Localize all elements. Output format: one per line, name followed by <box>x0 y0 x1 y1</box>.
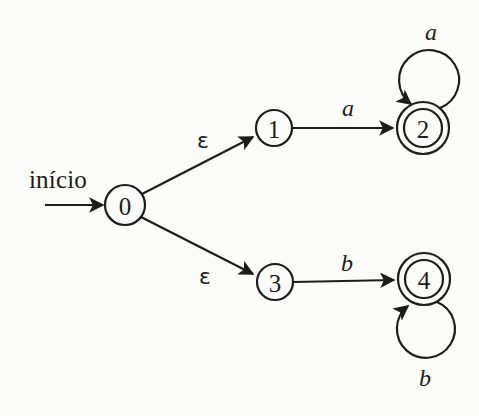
edge-3-to-4[interactable] <box>293 280 394 282</box>
start-label: início <box>29 167 87 192</box>
state-1-label: 1 <box>268 117 281 142</box>
edge-0-to-3[interactable] <box>141 217 253 274</box>
edge-label-0-to-3: ε <box>199 266 211 288</box>
self-loop-state-2[interactable] <box>399 50 459 108</box>
edge-label-3-to-4: b <box>341 251 353 275</box>
state-3-label: 3 <box>269 271 282 296</box>
self-loop-label-state-2: a <box>425 20 437 44</box>
state-2-label: 2 <box>417 117 430 142</box>
self-loop-label-state-4: b <box>419 366 431 390</box>
edge-label-0-to-1: ε <box>197 130 209 152</box>
state-0-label: 0 <box>119 194 132 219</box>
diagram-vector-layer <box>0 0 479 416</box>
edge-label-1-to-2: a <box>342 96 354 120</box>
state-4-label: 4 <box>418 268 431 293</box>
self-loop-state-4[interactable] <box>397 302 455 358</box>
automaton-diagram: 0 1 2 3 4 início ε ε a b a b <box>0 0 479 416</box>
